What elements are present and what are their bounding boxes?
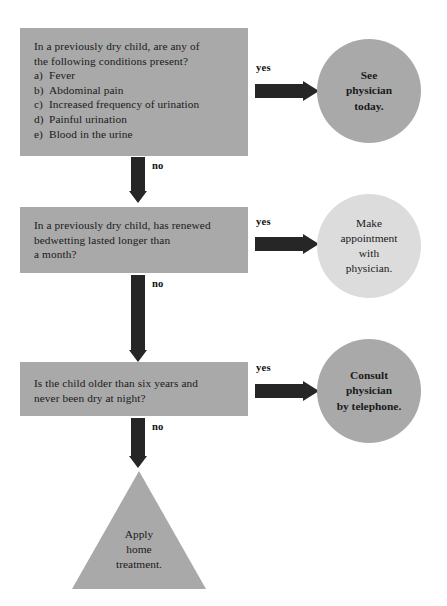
option-b: b)Abdominal pain <box>34 83 242 98</box>
decision-box-3: Is the child older than six years and ne… <box>20 362 248 416</box>
outcome-circle-2: Make appointment with physician. <box>317 194 421 298</box>
outcome-circle-1: See physician today. <box>317 39 421 143</box>
edge-label-yes-2: yes <box>256 216 271 227</box>
decision-box-1-line-2: the following conditions present? <box>34 54 242 69</box>
outcome-circle-3-line-1: Consult <box>337 368 402 383</box>
edge-label-yes-1: yes <box>256 62 271 73</box>
flowchart-canvas: In a previously dry child, are any of th… <box>0 0 447 606</box>
outcome-circle-1-line-1: See <box>346 68 392 83</box>
decision-box-1-options: a)Fever b)Abdominal pain c)Increased fre… <box>34 68 242 141</box>
outcome-circle-3-text: Consult physician by telephone. <box>331 368 408 414</box>
decision-box-2: In a previously dry child, has renewed b… <box>20 207 248 273</box>
option-a-text: Fever <box>49 69 75 81</box>
outcome-circle-3-line-2: physician <box>337 383 402 398</box>
option-a: a)Fever <box>34 68 242 83</box>
outcome-circle-1-text: See physician today. <box>340 68 398 114</box>
option-c-label: c) <box>34 97 49 112</box>
decision-box-3-text: Is the child older than six years and ne… <box>34 376 242 405</box>
outcome-circle-2-line-3: with <box>341 246 398 261</box>
option-e-text: Blood in the urine <box>49 128 133 140</box>
terminal-triangle-text: Apply home treatment. <box>72 527 206 573</box>
option-d-label: d) <box>34 112 49 127</box>
outcome-circle-2-line-4: physician. <box>341 261 398 276</box>
terminal-triangle-line-1: Apply <box>72 527 206 542</box>
arrow-no-2 <box>129 275 147 362</box>
outcome-circle-3: Consult physician by telephone. <box>317 339 421 443</box>
outcome-circle-1-line-2: physician <box>346 83 392 98</box>
option-b-text: Abdominal pain <box>49 84 124 96</box>
arrow-yes-3 <box>255 381 319 401</box>
option-c-text: Increased frequency of urination <box>49 98 199 110</box>
arrow-yes-2 <box>255 234 319 254</box>
edge-label-no-2: no <box>152 278 164 289</box>
outcome-circle-1-line-3: today. <box>346 99 392 114</box>
decision-box-1: In a previously dry child, are any of th… <box>20 28 248 156</box>
decision-box-2-line-3: a month? <box>34 247 242 262</box>
option-e-label: e) <box>34 127 49 142</box>
edge-label-no-1: no <box>152 160 164 171</box>
arrow-no-3 <box>129 418 147 468</box>
arrow-yes-1 <box>255 81 319 101</box>
outcome-circle-3-line-3: by telephone. <box>337 399 402 414</box>
arrow-no-1 <box>129 157 147 203</box>
outcome-circle-2-line-1: Make <box>341 216 398 231</box>
terminal-triangle: Apply home treatment. <box>72 471 206 589</box>
terminal-triangle-line-2: home <box>72 542 206 557</box>
edge-label-no-3: no <box>152 421 164 432</box>
decision-box-3-line-2: never been dry at night? <box>34 391 242 406</box>
decision-box-2-line-2: bedwetting lasted longer than <box>34 233 242 248</box>
decision-box-2-line-1: In a previously dry child, has renewed <box>34 218 242 233</box>
option-d-text: Painful urination <box>49 113 127 125</box>
outcome-circle-2-text: Make appointment with physician. <box>335 216 404 277</box>
option-b-label: b) <box>34 83 49 98</box>
decision-box-3-line-1: Is the child older than six years and <box>34 376 242 391</box>
decision-box-1-line-1: In a previously dry child, are any of <box>34 39 242 54</box>
outcome-circle-2-line-2: appointment <box>341 231 398 246</box>
terminal-triangle-line-3: treatment. <box>72 557 206 572</box>
option-e: e)Blood in the urine <box>34 127 242 142</box>
decision-box-1-text: In a previously dry child, are any of th… <box>34 39 242 141</box>
edge-label-yes-3: yes <box>256 362 271 373</box>
option-d: d)Painful urination <box>34 112 242 127</box>
option-a-label: a) <box>34 68 49 83</box>
decision-box-2-text: In a previously dry child, has renewed b… <box>34 218 242 262</box>
option-c: c)Increased frequency of urination <box>34 97 242 112</box>
